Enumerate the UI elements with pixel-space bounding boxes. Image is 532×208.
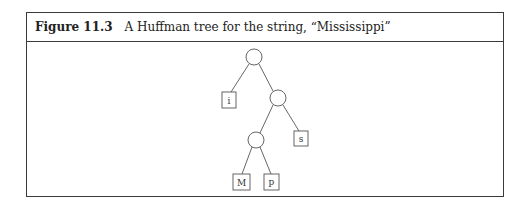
edge-n1-n2 <box>260 105 273 133</box>
edge-n1-s <box>283 105 299 131</box>
tree-node-internal <box>248 132 264 148</box>
tree-node-root <box>246 49 262 65</box>
huffman-tree: i s M p <box>0 0 532 208</box>
leaf-label-M: M <box>237 178 246 188</box>
edge-n2-M <box>242 147 252 174</box>
leaf-label-p: p <box>269 177 275 187</box>
edge-root-i <box>231 64 249 92</box>
edge-n2-p <box>260 147 271 174</box>
leaf-label-s: s <box>299 134 304 144</box>
leaf-label-i: i <box>228 96 231 106</box>
tree-node-internal <box>270 90 286 106</box>
edge-root-n1 <box>259 64 273 91</box>
